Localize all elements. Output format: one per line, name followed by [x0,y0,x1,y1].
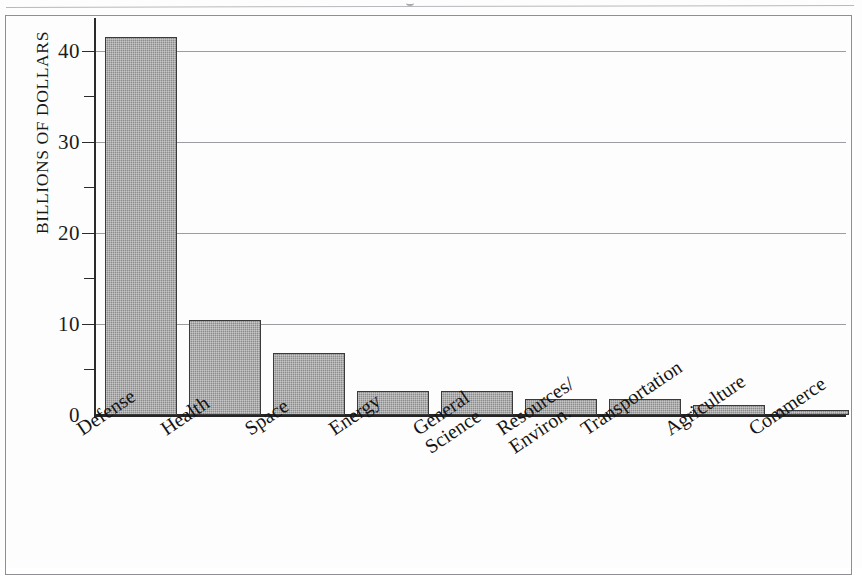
gridline-30 [96,142,846,143]
y-tick-minor-35 [84,96,95,97]
y-tick-major-40 [82,51,95,52]
y-tick-minor-15 [84,278,95,279]
y-tick-major-20 [82,233,95,234]
gridline-40 [96,51,846,52]
y-tick-minor-5 [84,369,95,370]
y-tick-label-30: 30 [34,132,80,153]
y-tick-minor-25 [84,187,95,188]
gridline-20 [96,233,846,234]
y-tick-major-30 [82,142,95,143]
y-axis-tick-labels: 40 30 20 10 0 [18,0,80,568]
y-tick-label-20: 20 [34,223,80,244]
y-tick-major-10 [82,324,95,325]
y-tick-label-40: 40 [34,41,80,62]
y-tick-label-10: 10 [34,314,80,335]
